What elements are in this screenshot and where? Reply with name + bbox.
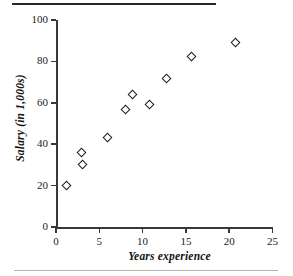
x-axis-tick — [99, 228, 101, 233]
data-point-marker — [78, 160, 88, 170]
data-point-marker — [102, 132, 112, 142]
plot-area: 020406080100 0510152025 Salary (in 1,000… — [0, 0, 293, 276]
data-point-marker — [162, 74, 172, 84]
y-axis-tick-label: 100 — [20, 14, 48, 25]
x-axis-tick — [272, 228, 274, 233]
x-axis-tick-label: 20 — [216, 236, 242, 247]
y-axis-tick — [51, 185, 56, 187]
bottom-divider-rule — [14, 270, 278, 271]
x-axis-tick-label: 0 — [43, 236, 69, 247]
x-axis-tick — [142, 228, 144, 233]
data-point-marker — [145, 100, 155, 110]
y-axis-tick — [51, 61, 56, 63]
x-axis-tick — [185, 228, 187, 233]
x-axis-tick-label: 15 — [173, 236, 199, 247]
data-point-marker — [127, 90, 137, 100]
y-axis-tick — [51, 102, 56, 104]
y-axis-title: Salary (in 1,000s) — [14, 38, 26, 198]
y-axis-tick — [51, 19, 56, 21]
data-point-marker — [120, 104, 130, 114]
data-point-marker — [61, 181, 71, 191]
data-point-marker — [187, 51, 197, 61]
y-axis-line — [56, 20, 58, 228]
x-axis-line — [56, 227, 273, 229]
data-point-marker — [230, 38, 240, 48]
x-axis-tick — [228, 228, 230, 233]
y-axis-tick — [51, 143, 56, 145]
data-point-marker — [77, 147, 87, 157]
y-axis-tick-label: 0 — [20, 221, 48, 232]
scatter-plot-figure: 020406080100 0510152025 Salary (in 1,000… — [0, 0, 293, 276]
x-axis-tick-label: 25 — [260, 236, 286, 247]
x-axis-tick-label: 5 — [86, 236, 112, 247]
x-axis-tick — [55, 228, 57, 233]
x-axis-title: Years experience — [0, 250, 293, 262]
x-axis-tick-label: 10 — [130, 236, 156, 247]
